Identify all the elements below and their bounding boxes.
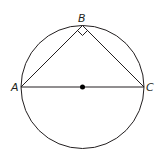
segment-ab: [21, 26, 83, 88]
label-a: A: [10, 81, 19, 94]
label-b: B: [78, 12, 86, 25]
right-angle-marker: [78, 31, 88, 36]
geometry-diagram: A B C: [0, 0, 163, 162]
label-c: C: [146, 81, 154, 94]
center-point: [80, 85, 85, 90]
segment-bc: [83, 26, 145, 88]
